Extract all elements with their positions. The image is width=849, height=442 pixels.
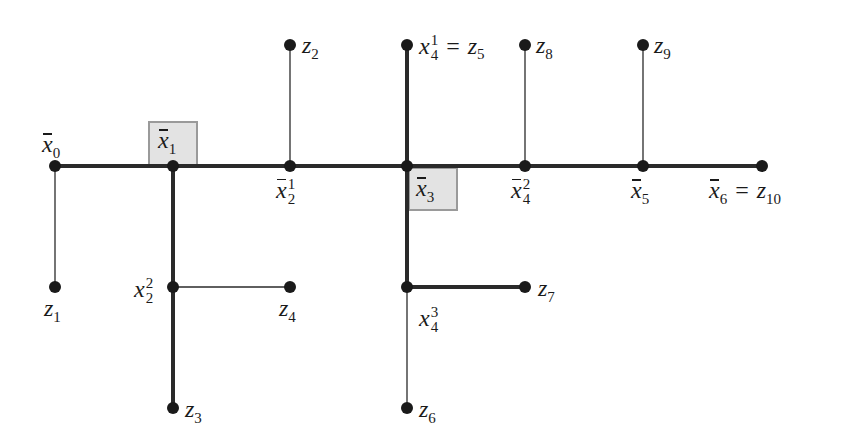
- label-z8: z8: [536, 33, 553, 62]
- label-x5: x5: [631, 178, 649, 207]
- label-x4-3: x34: [419, 305, 438, 335]
- label-x6-eq-z10: x6=z10: [709, 178, 781, 207]
- label-x1: x1: [158, 128, 176, 157]
- label-z6: z6: [419, 397, 436, 426]
- tree-diagram: [0, 0, 849, 442]
- node-x3: [401, 160, 413, 172]
- label-z9: z9: [654, 33, 671, 62]
- node-z6: [401, 402, 413, 414]
- label-x4-2: x24: [511, 177, 530, 207]
- node-z1: [49, 281, 61, 293]
- node-x2_1: [284, 160, 296, 172]
- label-z1: z1: [44, 296, 61, 325]
- label-x2-2: x22: [134, 276, 153, 306]
- node-x4_1: [401, 39, 413, 51]
- label-x2-1: x12: [276, 177, 295, 207]
- node-x6: [756, 160, 768, 172]
- node-z4: [284, 281, 296, 293]
- node-z8: [519, 39, 531, 51]
- node-x0: [49, 160, 61, 172]
- edges: [55, 45, 762, 408]
- node-z2: [284, 39, 296, 51]
- label-z7: z7: [538, 276, 555, 305]
- label-x3: x3: [416, 176, 434, 205]
- node-x1: [167, 160, 179, 172]
- label-z4: z4: [279, 296, 296, 325]
- node-z7: [519, 281, 531, 293]
- node-x5: [637, 160, 649, 172]
- node-x4_3: [401, 281, 413, 293]
- label-z2: z2: [302, 33, 319, 62]
- label-x4-1-eq-z5: x14=z5: [419, 33, 485, 63]
- node-z9: [637, 39, 649, 51]
- node-x2_2: [167, 281, 179, 293]
- node-z3: [167, 402, 179, 414]
- node-x4_2: [519, 160, 531, 172]
- label-x0: x0: [42, 132, 60, 161]
- label-z3: z3: [185, 397, 202, 426]
